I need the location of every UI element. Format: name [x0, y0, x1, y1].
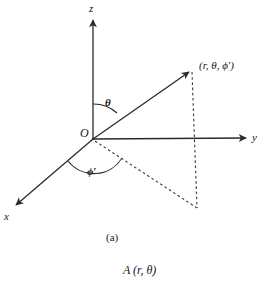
- y-axis-line: [93, 138, 246, 139]
- spherical-coordinate-figure: z y x O θ ϕ′ (r, θ, ϕ′) (a) A (r, θ): [0, 0, 264, 283]
- y-axis-label: y: [252, 132, 257, 143]
- phi-angle-label: ϕ′: [87, 166, 96, 177]
- theta-angle-label: θ: [105, 97, 111, 108]
- vertical-projection-dashed-line: [192, 72, 197, 208]
- inplane-projection-dashed-line: [95, 141, 197, 208]
- x-axis-label: x: [4, 211, 9, 222]
- coordinate-diagram: [0, 0, 264, 283]
- x-axis-line: [16, 139, 93, 205]
- formula-label: A (r, θ): [123, 264, 156, 276]
- point-coordinates-label: (r, θ, ϕ′): [199, 60, 234, 71]
- figure-caption: (a): [106, 232, 118, 243]
- origin-label: O: [80, 127, 89, 139]
- origin-point: [92, 138, 94, 140]
- z-axis-label: z: [89, 3, 93, 14]
